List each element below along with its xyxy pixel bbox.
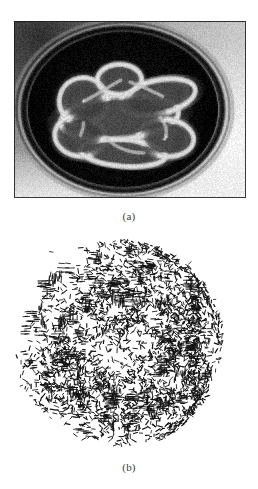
figure-root: (a) (b) bbox=[0, 0, 258, 489]
panel-b-orientation-field bbox=[13, 233, 245, 453]
panel-a-canvas bbox=[14, 21, 246, 198]
panel-b-caption: (b) bbox=[0, 461, 258, 473]
panel-a-caption: (a) bbox=[0, 210, 258, 222]
panel-b-canvas bbox=[13, 233, 245, 453]
panel-a-image bbox=[14, 21, 246, 198]
